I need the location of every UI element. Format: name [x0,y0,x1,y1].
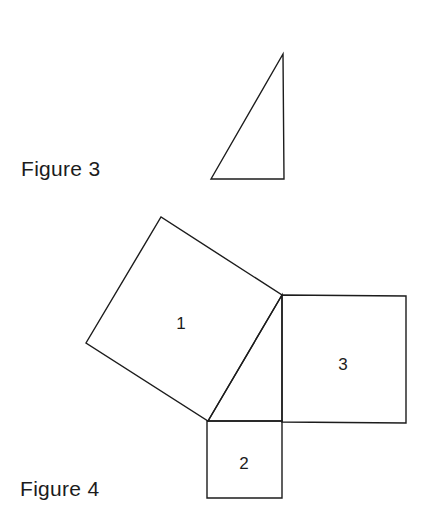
figure-3-triangle [211,54,284,179]
figure-4-triangle [208,295,282,421]
square-1-label: 1 [176,314,185,333]
figure-4-caption: Figure 4 [20,477,99,501]
square-2-label: 2 [239,454,248,473]
figure-3-caption: Figure 3 [21,157,100,181]
diagram-canvas: 1 2 3 [0,0,428,524]
square-3-label: 3 [338,355,347,374]
